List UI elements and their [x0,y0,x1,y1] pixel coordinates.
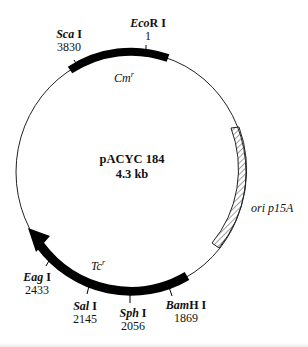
plasmid-name: pACYC 184 [90,152,174,167]
site-eagi-position: 2433 [20,284,54,297]
gene-tcr-sup: r [102,258,105,267]
site-scai-position: 3830 [52,41,86,54]
site-sali-roman: I [89,299,97,313]
site-ecori-italic: Eco [130,16,149,30]
site-sali: Sal I 2145 [68,300,102,326]
site-sali-italic: Sal [73,299,89,313]
gene-cmr-name: Cm [114,71,131,85]
site-sphi-italic: Sph [119,306,138,320]
site-eagi: Eag I 2433 [20,271,54,297]
gene-cmr-label: Cmr [114,70,134,86]
tcr-gene-arc [40,245,187,291]
caption-fragment [0,343,308,347]
site-scai: Sca I 3830 [52,28,86,54]
site-bamhi-roman: H I [189,298,206,312]
site-ecori: EcoR I 1 [126,17,170,43]
site-sphi-roman: I [139,306,147,320]
plasmid-size: 4.3 kb [90,167,174,182]
ori-name: ori p15A [251,201,293,215]
site-sphi: Sph I 2056 [116,307,150,333]
site-ecori-roman: R I [150,16,166,30]
ori-segment [212,127,247,248]
site-bamhi: BamH I 1869 [164,299,208,325]
plasmid-title: pACYC 184 4.3 kb [90,152,174,182]
gene-cmr-sup: r [131,70,134,79]
site-scai-italic: Sca [56,27,74,41]
site-bamhi-italic: Bam [166,298,189,312]
gene-tcr-name: Tc [91,259,102,273]
site-ecori-position: 1 [126,30,170,43]
cmr-gene-arc [70,52,168,70]
site-sphi-position: 2056 [116,320,150,333]
gene-tcr-label: Tcr [91,258,105,274]
site-eagi-roman: I [43,270,51,284]
ori-label: ori p15A [251,201,293,216]
site-scai-roman: I [74,27,82,41]
site-bamhi-position: 1869 [164,312,208,325]
site-eagi-italic: Eag [23,270,43,284]
site-sali-position: 2145 [68,313,102,326]
